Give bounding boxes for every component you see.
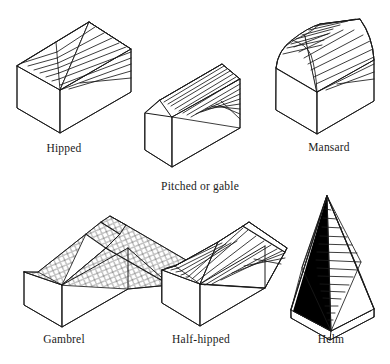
diagram-hipped [17, 22, 131, 133]
caption-gambrel: Gambrel [43, 333, 85, 345]
diagram-pitched [145, 64, 240, 167]
diagram-helm [291, 196, 374, 340]
caption-pitched-or-gable: Pitched or gable [161, 180, 239, 192]
roof-types-figure: Hipped Pitched or gable Mansard Gambrel … [0, 0, 390, 364]
caption-helm: Helm [318, 333, 344, 345]
diagram-half-hipped [162, 222, 287, 326]
caption-mansard: Mansard [308, 141, 350, 153]
caption-hipped: Hipped [46, 142, 81, 154]
diagram-mansard [276, 19, 374, 134]
caption-half-hipped: Half-hipped [172, 333, 230, 345]
